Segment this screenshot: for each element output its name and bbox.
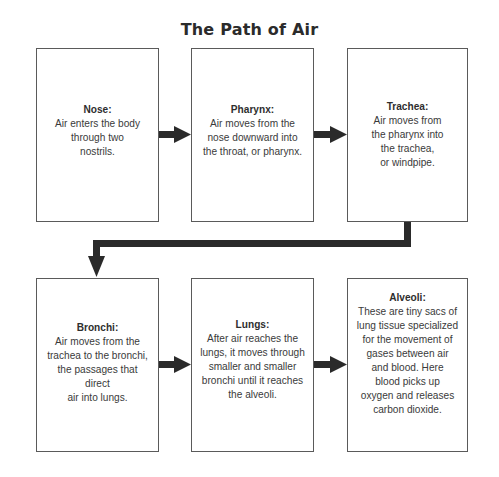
step-heading: Lungs:	[200, 317, 306, 331]
step-description: Air moves from the pharynx into the trac…	[356, 113, 460, 169]
step-heading: Trachea:	[356, 99, 460, 113]
step-heading: Nose:	[45, 102, 151, 116]
step-box-pharynx: Pharynx: Air moves from the nose downwar…	[191, 48, 314, 222]
step-heading: Pharynx:	[200, 102, 306, 116]
step-heading: Bronchi:	[45, 320, 151, 334]
step-box-lungs: Lungs: After air reaches the lungs, it m…	[191, 278, 314, 452]
step-description: Air enters the body through two nostrils…	[45, 116, 151, 158]
step-description: Air moves from the trachea to the bronch…	[45, 334, 151, 404]
arrow-pharynx-to-trachea	[313, 126, 347, 143]
step-heading: Alveoli:	[356, 290, 460, 304]
arrow-lungs-to-alveoli	[313, 356, 347, 373]
step-description: After air reaches the lungs, it moves th…	[200, 331, 306, 401]
step-box-bronchi: Bronchi: Air moves from the trachea to t…	[36, 278, 159, 452]
arrow-bronchi-to-lungs	[158, 356, 191, 373]
step-box-trachea: Trachea: Air moves from the pharynx into…	[347, 48, 468, 222]
arrow-trachea-to-bronchi	[88, 221, 411, 277]
step-box-nose: Nose: Air enters the body through two no…	[36, 48, 159, 222]
step-description: Air moves from the nose downward into th…	[200, 116, 306, 158]
step-description: These are tiny sacs of lung tissue speci…	[356, 304, 460, 416]
step-box-alveoli: Alveoli: These are tiny sacs of lung tis…	[347, 278, 468, 452]
arrow-nose-to-pharynx	[158, 126, 191, 143]
